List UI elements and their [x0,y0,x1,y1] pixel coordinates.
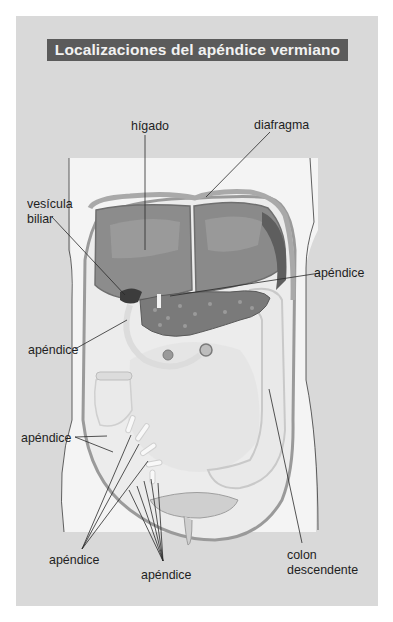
label-appendix-left-middle: apéndice [21,430,71,445]
bowel-cross-section [200,344,212,356]
label-liver: hígado [131,118,169,133]
label-appendix-right-upper: apéndice [314,265,364,280]
appendix-subhepatic [157,294,161,308]
label-diaphragm: diafragma [254,117,309,132]
label-appendix-bottom-left: apéndice [49,552,99,567]
label-gallbladder-line1: vesícula [27,196,73,211]
label-appendix-bottom-center: apéndice [141,567,191,582]
liver-highlight-2 [205,216,262,251]
label-appendix-left-upper: apéndice [28,342,78,357]
ascending-colon-segment [96,372,132,380]
label-gallbladder-line2: biliar [27,211,53,226]
urethra [184,516,192,545]
anatomy-illustration [0,0,393,622]
bowel-cross-section-2 [163,350,173,360]
label-descending-colon-line1: colon [287,547,317,562]
label-descending-colon-line2: descendente [287,562,358,577]
cecum [95,375,132,426]
